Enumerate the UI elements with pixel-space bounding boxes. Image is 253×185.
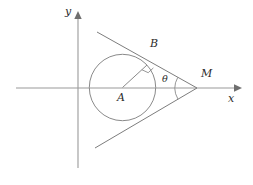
- x-axis: [16, 84, 242, 92]
- point-label-B: B: [150, 38, 158, 49]
- geometry-figure: y x B M A θ: [0, 0, 253, 185]
- y-axis-label: y: [65, 6, 71, 17]
- radius-segment-AB: [123, 65, 148, 88]
- tangent-line-upper: [97, 32, 197, 88]
- x-axis-label: x: [228, 93, 234, 104]
- y-axis-arrow-icon: [74, 11, 81, 19]
- y-axis: [74, 11, 81, 168]
- x-axis-arrow-icon: [234, 84, 242, 92]
- point-label-A: A: [117, 92, 125, 103]
- point-label-M: M: [201, 68, 212, 79]
- angle-label-theta: θ: [162, 74, 168, 84]
- figure-canvas: [0, 0, 253, 185]
